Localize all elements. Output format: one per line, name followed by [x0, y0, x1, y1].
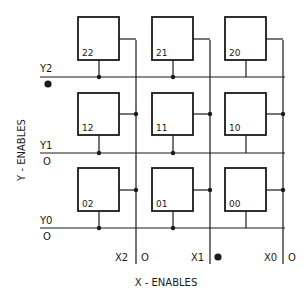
cell-label: 01: [156, 199, 167, 209]
cell-label: 11: [156, 123, 167, 133]
y0-label: Y0: [39, 215, 52, 226]
x1-label: X1: [191, 252, 204, 263]
x2-label: X2: [115, 252, 128, 263]
y1-label: Y1: [39, 140, 52, 151]
y0-state: O: [43, 231, 51, 242]
y2-active-indicator-icon: [44, 80, 51, 87]
cell-label: 21: [156, 48, 167, 58]
x0-state: O: [288, 252, 296, 263]
x0-label: X0: [264, 252, 277, 263]
cell-label: 22: [82, 48, 93, 58]
x-axis-title: X - ENABLES: [135, 277, 198, 288]
wiring: [40, 39, 285, 264]
enable-matrix-diagram: 22 21 20 12 11 10 02 01 00 Y2 Y1 Y0 O O …: [0, 0, 307, 299]
cell-label: 20: [229, 48, 241, 58]
x1-active-indicator-icon: [214, 253, 221, 260]
x-line-labels: X2 O X1 X0 O: [115, 252, 296, 263]
cell-label: 00: [229, 199, 241, 209]
cell-label: 10: [229, 123, 241, 133]
y1-state: O: [43, 156, 51, 167]
cells: [78, 17, 266, 211]
cell-label: 12: [82, 123, 93, 133]
x2-state: O: [141, 252, 149, 263]
y2-label: Y2: [39, 63, 52, 74]
y-axis-title: Y - ENABLES: [16, 119, 27, 182]
cell-label: 02: [82, 199, 93, 209]
